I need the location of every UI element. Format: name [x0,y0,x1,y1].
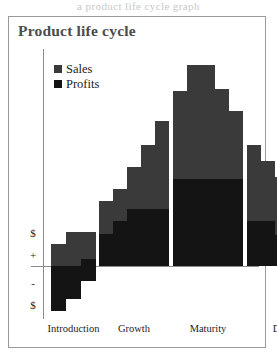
bar-segment [261,49,275,319]
bar-segment [66,49,81,319]
bar-segment-sales [141,145,155,209]
figure-frame: Product life cycle Sales Profits $+-$ In… [8,16,266,348]
x-axis-labels: IntroductionGrowthMaturityDecline [43,323,263,339]
x-axis-tick-label: Decline [249,323,277,334]
y-axis-tick-label: + [27,249,39,261]
page-edge-text-artifact: a product life cycle graph [0,0,277,13]
bar-segment [215,49,229,319]
bar-segment-profits [141,209,155,266]
bar-segment [187,49,201,319]
y-axis-tick-label: $ [27,227,39,239]
bar-segment [247,49,261,319]
bar-segment-sales [81,232,96,259]
bar-segment [127,49,141,319]
bar-segment-profits [187,179,201,266]
bar-segment [155,49,169,319]
bar-segment-sales [215,89,229,179]
bar-segment-sales [229,111,243,179]
bar-segment [229,49,243,319]
bar-segment-sales [201,65,215,179]
bar-segment-profits [99,234,113,266]
bar-segment-profits [275,235,277,266]
bar-segment-profits [261,221,275,266]
bar-segment [51,49,66,319]
bar-segment-profits [127,209,141,266]
page-title: Product life cycle [18,22,136,40]
bar-segment [81,49,96,319]
bar-segment-sales [247,145,261,221]
chart-plot-area: Sales Profits $+-$ [43,49,259,319]
bar-segment-sales [173,91,187,179]
bar-segment-sales [187,65,201,179]
x-axis-tick-label: Growth [94,323,174,334]
bar-segment-profits [81,259,96,281]
bar-segment-sales [127,167,141,209]
bar-segment-profits [215,179,229,266]
bar-segment [99,49,113,319]
bar-segment-profits [113,221,127,266]
bar-segment-sales [275,177,277,235]
bar-segment-profits [155,209,169,266]
bar-segment-profits [173,179,187,266]
bar-segment [173,49,187,319]
bar-segment-profits [51,266,66,311]
bar-segment-profits [247,221,261,266]
bar-segment-sales [51,244,66,266]
y-axis-tick-label: $ [27,299,39,311]
bar-segment-sales [113,189,127,221]
y-axis-tick-label: - [27,277,39,289]
bar-segment-profits [229,179,243,266]
bar-segment [201,49,215,319]
bar-segment-sales [99,201,113,234]
bar-segment-sales [261,161,275,221]
bar-segment-profits [201,179,215,266]
bar-segment [275,49,277,319]
x-axis-tick-label: Maturity [168,323,248,334]
bar-segment-sales [66,232,81,266]
bar-segment-profits [66,266,81,299]
y-axis-line [43,49,44,319]
bar-segment-sales [155,121,169,209]
bar-segment [113,49,127,319]
bar-segment [141,49,155,319]
